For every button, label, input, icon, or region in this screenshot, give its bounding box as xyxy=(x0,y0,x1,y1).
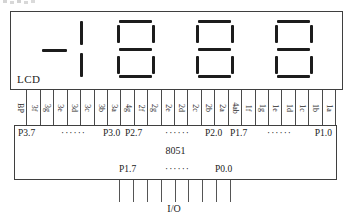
port-ellipsis: ······ xyxy=(165,164,190,174)
pin-wire-3b: 3b xyxy=(95,90,108,125)
segment-d xyxy=(198,75,231,78)
digit-4-half xyxy=(42,20,84,78)
pin-label: 2a xyxy=(217,104,226,112)
io-wire xyxy=(119,180,120,202)
pin-label: 1a xyxy=(324,104,333,112)
io-wire xyxy=(175,180,176,202)
port-ellipsis: ······ xyxy=(61,128,86,138)
pin-label: 1g xyxy=(257,104,266,112)
segment-a xyxy=(198,20,231,23)
port-label-p3.0: P3.0 xyxy=(103,128,120,138)
segment-b xyxy=(310,25,313,43)
segment-e xyxy=(275,56,278,74)
pin-label: 2d xyxy=(177,104,186,112)
segment-d xyxy=(119,75,152,78)
pin-label: 1b xyxy=(311,104,320,112)
segment-ab xyxy=(80,53,83,77)
io-wire xyxy=(202,180,203,202)
pin-label: 2c xyxy=(190,104,199,112)
pin-wire-4ab: 4ab xyxy=(229,90,242,125)
segment-f xyxy=(117,25,120,43)
pin-wire-2b: 2b xyxy=(202,90,215,125)
pin-label: 1f xyxy=(244,104,253,111)
io-wire xyxy=(216,180,217,202)
segment-c xyxy=(310,56,313,74)
io-wire xyxy=(230,180,231,202)
pin-label: 2b xyxy=(204,104,213,112)
mcu-8051-chip: P3.7······P3.0P2.7······P2.0P1.7······P1… xyxy=(14,125,337,180)
segment-e xyxy=(196,56,199,74)
pin-wire-4g: 4g xyxy=(121,90,134,125)
pin-wire-bp: BP xyxy=(14,90,27,125)
digit-2 xyxy=(196,20,234,78)
segment-g xyxy=(198,48,231,51)
segment-c xyxy=(231,56,234,74)
pin-label: 2e xyxy=(163,104,172,112)
pin-wire-1f: 1f xyxy=(242,90,255,125)
pin-wire-3c: 3c xyxy=(81,90,94,125)
segment-g xyxy=(42,49,67,52)
pin-wire-1d: 1d xyxy=(282,90,295,125)
pin-wire-1g: 1g xyxy=(256,90,269,125)
pin-wire-2d: 2d xyxy=(175,90,188,125)
io-wire xyxy=(133,180,134,202)
pin-label: 2g xyxy=(150,104,159,112)
digit-3 xyxy=(117,20,155,78)
io-wire xyxy=(161,180,162,202)
clipped-print-artifact xyxy=(3,0,7,3)
lcd-8051-wiring-diagram: LCD BP3f3g3e3d3c3b3a4g2f2g2e2d2c2b2a4ab1… xyxy=(0,0,350,224)
port-label-p2.0: P2.0 xyxy=(205,128,222,138)
pin-wire-2g: 2g xyxy=(148,90,161,125)
pin-label: 3a xyxy=(110,104,119,112)
digit-1 xyxy=(275,20,313,78)
pin-wire-3f: 3f xyxy=(27,90,40,125)
io-label: I/O xyxy=(158,203,190,214)
pin-wire-2c: 2c xyxy=(188,90,201,125)
segment-a xyxy=(119,20,152,23)
pin-label: 2f xyxy=(137,104,146,111)
pin-label: 3g xyxy=(43,104,52,112)
segment-f xyxy=(275,25,278,43)
pin-label: 3e xyxy=(56,104,65,112)
pin-wire-2f: 2f xyxy=(135,90,148,125)
pin-label: 1e xyxy=(271,104,280,112)
segment-d xyxy=(277,75,310,78)
segment-f xyxy=(196,25,199,43)
pin-wire-3e: 3e xyxy=(54,90,67,125)
io-wire xyxy=(147,180,148,202)
pin-wire-1e: 1e xyxy=(269,90,282,125)
pin-wire-3g: 3g xyxy=(41,90,54,125)
pin-wire-1b: 1b xyxy=(309,90,322,125)
segment-e xyxy=(117,56,120,74)
pin-label: 4g xyxy=(123,104,132,112)
segment-b xyxy=(152,25,155,43)
segment-c xyxy=(152,56,155,74)
port-ellipsis: ······ xyxy=(165,128,190,138)
pin-label: 4ab xyxy=(230,102,239,114)
segment-g xyxy=(119,48,152,51)
port-label-p1.0: P1.0 xyxy=(315,128,332,138)
pin-label: BP xyxy=(16,103,25,113)
pin-wire-2a: 2a xyxy=(215,90,228,125)
io-wires xyxy=(119,180,231,202)
lcd-to-mcu-pin-wires: BP3f3g3e3d3c3b3a4g2f2g2e2d2c2b2a4ab1f1g1… xyxy=(14,90,336,125)
io-wire xyxy=(188,180,189,202)
pin-label: 3b xyxy=(96,104,105,112)
lcd-label: LCD xyxy=(17,73,41,85)
mcu-name: 8051 xyxy=(15,145,336,156)
segment-ab xyxy=(80,21,83,45)
pin-wire-1c: 1c xyxy=(296,90,309,125)
pin-wire-2e: 2e xyxy=(162,90,175,125)
pin-label: 1c xyxy=(298,104,307,112)
pin-label: 3c xyxy=(83,104,92,112)
segment-b xyxy=(231,25,234,43)
pin-wire-3a: 3a xyxy=(108,90,121,125)
port-label-p1.7: P1.7 xyxy=(230,128,247,138)
lcd-display-panel: LCD xyxy=(10,11,343,90)
pin-wire-3d: 3d xyxy=(68,90,81,125)
port-label-p3.7: P3.7 xyxy=(18,128,35,138)
pin-wire-1a: 1a xyxy=(323,90,336,125)
port-label-p0.0: P0.0 xyxy=(215,164,232,174)
port-label-p2.7: P2.7 xyxy=(125,128,142,138)
segment-g xyxy=(277,48,310,51)
